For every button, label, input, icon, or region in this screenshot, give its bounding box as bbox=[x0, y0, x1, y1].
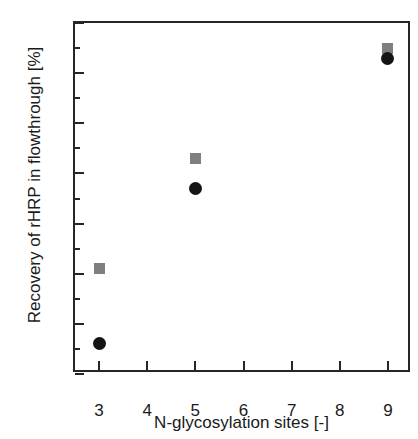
x-axis-tick bbox=[243, 361, 245, 370]
x-axis-tick-label: 3 bbox=[84, 402, 114, 419]
plot-area: 304050607080901003456789 bbox=[73, 21, 410, 372]
x-axis-tick-label: 9 bbox=[373, 402, 403, 419]
chart-figure: Recovery of rHRP in flowthrough [%] N-gl… bbox=[0, 0, 418, 439]
x-axis-tick bbox=[98, 361, 100, 370]
y-axis-minor-tick bbox=[75, 348, 80, 350]
y-axis-minor-tick bbox=[75, 97, 80, 99]
y-axis-tick bbox=[75, 22, 84, 24]
x-axis-tick-label: 5 bbox=[180, 402, 210, 419]
data-point-square bbox=[94, 263, 105, 274]
x-axis-tick bbox=[291, 361, 293, 370]
x-axis-tick bbox=[194, 361, 196, 370]
y-axis-tick bbox=[75, 223, 84, 225]
x-axis-tick-label: 8 bbox=[325, 402, 355, 419]
x-axis-tick bbox=[339, 361, 341, 370]
y-axis-minor-tick bbox=[75, 47, 80, 49]
y-axis-tick bbox=[75, 323, 84, 325]
x-axis-tick-label: 6 bbox=[229, 402, 259, 419]
y-axis-tick bbox=[75, 72, 84, 74]
data-point-circle bbox=[381, 52, 394, 65]
y-axis-minor-tick bbox=[75, 198, 80, 200]
x-axis-tick-label: 4 bbox=[132, 402, 162, 419]
x-axis-tick bbox=[146, 361, 148, 370]
data-point-circle bbox=[189, 182, 202, 195]
y-axis-tick bbox=[75, 373, 84, 375]
y-axis-tick bbox=[75, 122, 84, 124]
data-point-square bbox=[190, 153, 201, 164]
y-axis-minor-tick bbox=[75, 248, 80, 250]
data-point-circle bbox=[93, 337, 106, 350]
y-axis-minor-tick bbox=[75, 298, 80, 300]
y-axis-title: Recovery of rHRP in flowthrough [%] bbox=[25, 5, 45, 365]
x-axis-tick bbox=[387, 361, 389, 370]
y-axis-tick bbox=[75, 273, 84, 275]
x-axis-tick-label: 7 bbox=[277, 402, 307, 419]
y-axis-tick bbox=[75, 172, 84, 174]
y-axis-minor-tick bbox=[75, 147, 80, 149]
plot-canvas: 304050607080901003456789 bbox=[75, 23, 408, 370]
